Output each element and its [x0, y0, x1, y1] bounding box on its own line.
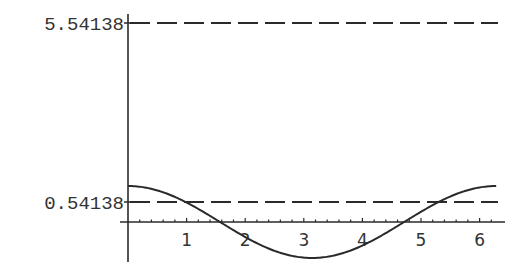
x-tick-label: 1	[181, 230, 192, 250]
x-tick-label: 6	[474, 230, 485, 250]
chart-plot: 123456 5.54138 0.54138	[0, 0, 516, 274]
y-label-bottom: 0.54138	[44, 193, 124, 215]
x-tick-label: 3	[298, 230, 309, 250]
y-label-top: 5.54138	[44, 14, 124, 36]
x-tick-label: 5	[416, 230, 427, 250]
x-axis-tick-labels: 123456	[181, 230, 485, 250]
